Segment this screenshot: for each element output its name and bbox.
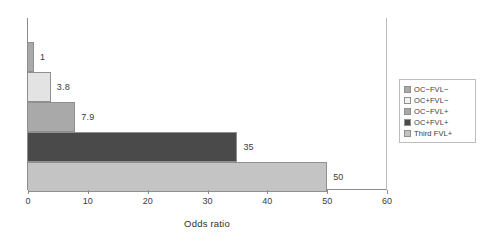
x-tick-label: 0: [25, 196, 30, 206]
legend-item: OC+FVL+: [404, 117, 471, 127]
bar-value-label: 50: [333, 172, 343, 182]
x-axis-title: Odds ratio: [27, 218, 387, 229]
chart-legend: OC−FVL−OC+FVL−OC−FVL+OC+FVL+Third FVL+: [399, 79, 476, 143]
bar: [28, 72, 51, 102]
chart-container: 13.87.93550 0102030405060 Odds ratio OC−…: [0, 0, 486, 251]
bar: [28, 102, 75, 132]
bar-value-label: 3.8: [57, 82, 70, 92]
bar-row: 35: [28, 132, 387, 162]
legend-swatch-icon: [404, 130, 411, 137]
x-tick-label: 30: [202, 196, 212, 206]
bar-value-label: 1: [40, 52, 45, 62]
legend-swatch-icon: [404, 108, 411, 115]
legend-item-label: OC−FVL+: [414, 107, 448, 116]
x-tick-label: 40: [262, 196, 272, 206]
x-tick-mark: [327, 190, 328, 194]
x-tick-mark: [28, 190, 29, 194]
legend-item: OC−FVL+: [404, 106, 471, 116]
x-tick-mark: [208, 190, 209, 194]
bar: [28, 42, 34, 72]
bar: [28, 162, 327, 192]
bar: [28, 132, 237, 162]
x-tick-mark: [88, 190, 89, 194]
x-tick-mark: [148, 190, 149, 194]
legend-swatch-icon: [404, 119, 411, 126]
legend-item: OC−FVL−: [404, 84, 471, 94]
x-axis-ticks: 0102030405060: [28, 190, 387, 212]
legend-item: Third FVL+: [404, 128, 471, 138]
bar-value-label: 7.9: [81, 112, 94, 122]
x-tick-label: 20: [143, 196, 153, 206]
bar-row: 1: [28, 42, 387, 72]
x-tick-label: 10: [83, 196, 93, 206]
bars-layer: 13.87.93550: [28, 18, 387, 190]
legend-item-label: OC+FVL−: [414, 96, 448, 105]
legend-swatch-icon: [404, 86, 411, 93]
legend-item-label: Third FVL+: [414, 129, 452, 138]
legend-swatch-icon: [404, 97, 411, 104]
legend-item: OC+FVL−: [404, 95, 471, 105]
x-tick-label: 60: [382, 196, 392, 206]
bar-row: 7.9: [28, 102, 387, 132]
bar-value-label: 35: [243, 142, 253, 152]
bar-row: 50: [28, 162, 387, 192]
legend-item-label: OC+FVL+: [414, 118, 448, 127]
x-tick-mark: [387, 190, 388, 194]
x-tick-label: 50: [322, 196, 332, 206]
legend-item-label: OC−FVL−: [414, 85, 448, 94]
x-tick-mark: [267, 190, 268, 194]
bar-row: 3.8: [28, 72, 387, 102]
